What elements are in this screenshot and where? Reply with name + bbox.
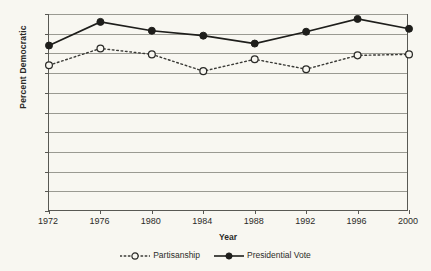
data-point <box>354 15 361 22</box>
data-point <box>303 28 310 35</box>
data-point <box>200 32 207 39</box>
x-axis-tick-label: 1972 <box>28 216 68 226</box>
data-series-group <box>49 14 409 211</box>
data-point <box>46 42 53 49</box>
data-point <box>251 40 258 47</box>
data-point <box>148 27 155 34</box>
legend-label-partisanship: Partisanship <box>153 250 200 261</box>
x-axis-tick-label: 1980 <box>131 216 171 226</box>
series-line <box>49 48 409 71</box>
y-axis-title: Percent Democratic <box>18 0 28 142</box>
data-point <box>251 56 258 63</box>
filled-circle-marker-icon <box>214 251 244 261</box>
x-axis-tick-label: 1996 <box>337 216 377 226</box>
open-circle-marker-icon <box>120 251 150 261</box>
data-point <box>303 66 310 73</box>
chart-container: Percent Democratic 010203040506070809010… <box>0 0 431 271</box>
x-axis-tick-label: 2000 <box>388 216 428 226</box>
series-presidential-vote <box>46 15 413 49</box>
chart-legend: Partisanship Presidential Vote <box>0 250 431 261</box>
data-point <box>354 52 361 59</box>
x-axis-tick-label: 1992 <box>285 216 325 226</box>
data-point <box>200 68 207 75</box>
data-point <box>406 51 413 58</box>
x-axis-tick-label: 1976 <box>79 216 119 226</box>
data-point <box>97 45 104 52</box>
legend-item-presidential-vote: Presidential Vote <box>214 250 311 261</box>
x-axis-tick-label: 1988 <box>234 216 274 226</box>
data-point <box>406 25 413 32</box>
series-partisanship <box>46 45 413 74</box>
x-axis-tick-label: 1984 <box>182 216 222 226</box>
x-axis-tick <box>409 210 410 214</box>
plot-area <box>48 14 408 211</box>
data-point <box>46 62 53 69</box>
data-point <box>97 18 104 25</box>
data-point <box>148 51 155 58</box>
legend-label-presidential-vote: Presidential Vote <box>247 250 311 261</box>
legend-item-partisanship: Partisanship <box>120 250 200 261</box>
x-axis-title: Year <box>48 232 408 242</box>
